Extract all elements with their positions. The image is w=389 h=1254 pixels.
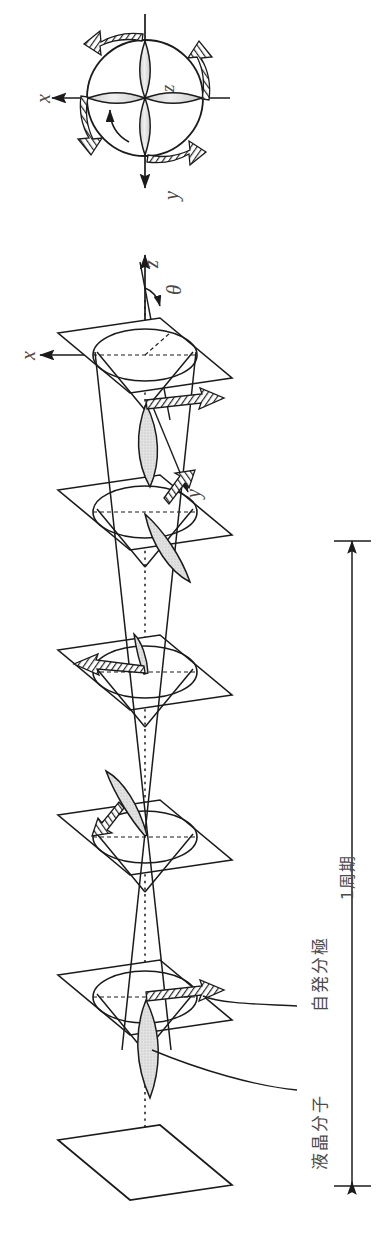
figure-canvas: x y z z θ x y 自発分極 液晶分子 1周期 <box>0 0 389 1254</box>
period-label: 1周期 <box>334 855 358 900</box>
main-x-label: x <box>17 351 40 360</box>
diagram-svg <box>0 0 389 1254</box>
top-view-y-label: y <box>160 191 183 200</box>
main-z-label: z <box>140 260 163 268</box>
main-theta-label: θ <box>162 285 187 295</box>
top-view-x-label: x <box>32 94 55 103</box>
main-y-label: y <box>182 489 205 498</box>
callout-liquid-crystal-molecule: 液晶分子 <box>306 1094 331 1170</box>
callout-spontaneous-polarization: 自発分極 <box>306 936 331 1012</box>
top-view-z-label: z <box>157 85 179 92</box>
